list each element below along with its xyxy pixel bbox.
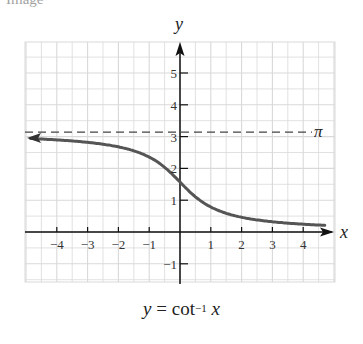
y-tick-label: 4 [171, 98, 178, 113]
x-tick-label: 4 [300, 237, 307, 252]
caption-func: cot [172, 298, 195, 319]
caption-exp: −1 [195, 302, 207, 314]
chart-caption: y = cot−1 x [0, 298, 363, 320]
y-axis-label: y [173, 14, 183, 34]
x-tick-label: −1 [142, 237, 156, 252]
x-tick-label: 2 [238, 237, 245, 252]
x-tick-label: −3 [81, 237, 95, 252]
chart-figure: Image π xy −4−3−2−11234−112345 y = cot−1… [0, 0, 363, 344]
y-tick-label: 3 [171, 130, 178, 145]
caption-lhs: y [143, 298, 151, 319]
x-tick-label: 1 [208, 237, 215, 252]
pi-label: π [314, 122, 323, 141]
y-tick-label: 1 [171, 193, 178, 208]
header-fragment: Image [6, 0, 43, 8]
y-tick-label: 2 [171, 161, 178, 176]
arccot-curve-path [31, 139, 325, 226]
caption-eq: = [156, 298, 167, 319]
y-tick-label: 5 [171, 66, 178, 81]
plot-area: π xy −4−3−2−11234−112345 [0, 0, 363, 300]
x-tick-label: −2 [111, 237, 125, 252]
y-tick-label: −1 [163, 257, 177, 272]
arccot-curve [27, 133, 325, 225]
x-tick-label: 3 [269, 237, 276, 252]
x-tick-label: −4 [50, 237, 64, 252]
x-axis-label: x [339, 222, 348, 242]
caption-arg: x [211, 298, 219, 319]
